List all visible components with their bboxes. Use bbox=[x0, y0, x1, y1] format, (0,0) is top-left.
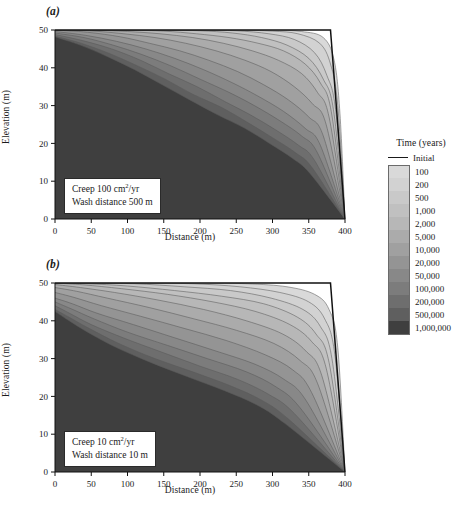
panel-b-annotation: Creep 10 cm2/yr Wash distance 10 m bbox=[64, 431, 156, 467]
svg-text:20: 20 bbox=[39, 392, 49, 402]
legend-entry-label: 1,000,000 bbox=[415, 323, 451, 333]
svg-text:40: 40 bbox=[39, 316, 49, 326]
svg-text:0: 0 bbox=[44, 467, 49, 477]
legend-color-swatch bbox=[388, 204, 410, 217]
legend-entry-label: 200,000 bbox=[415, 297, 444, 307]
legend-entry-label: 20,000 bbox=[415, 258, 440, 268]
legend-color-swatch bbox=[388, 308, 410, 321]
legend-color-swatch bbox=[388, 217, 410, 230]
svg-text:10: 10 bbox=[39, 429, 49, 439]
svg-text:30: 30 bbox=[39, 101, 49, 111]
legend-entry-label: 500,000 bbox=[415, 310, 444, 320]
legend-entry: 50,000 bbox=[388, 269, 469, 282]
panel-a-x-axis-title: Distance (m) bbox=[0, 232, 380, 242]
legend-entry-initial: Initial bbox=[382, 152, 469, 163]
legend-entry: 10,000 bbox=[388, 243, 469, 256]
legend-entry-label: 100,000 bbox=[415, 284, 444, 294]
legend-entry-label: 1,000 bbox=[415, 206, 435, 216]
legend-color-swatch bbox=[388, 256, 410, 269]
legend-color-swatch bbox=[388, 230, 410, 243]
panel-b-annotation-line2: Wash distance 10 m bbox=[72, 449, 148, 462]
figure-container: (a) 05010015020025030035040001020304050 … bbox=[0, 0, 469, 506]
legend-color-swatch bbox=[388, 165, 410, 179]
legend-entry-label: 10,000 bbox=[415, 245, 440, 255]
svg-text:20: 20 bbox=[39, 139, 49, 149]
svg-text:50: 50 bbox=[39, 25, 49, 35]
svg-text:30: 30 bbox=[39, 354, 49, 364]
legend-entry: 5,000 bbox=[388, 230, 469, 243]
legend-color-swatch bbox=[388, 178, 410, 191]
legend-title: Time (years) bbox=[382, 138, 460, 148]
legend-initial-line-swatch bbox=[388, 157, 408, 158]
legend-color-swatch bbox=[388, 295, 410, 308]
legend-entry: 2,000 bbox=[388, 217, 469, 230]
panel-a-plot: 05010015020025030035040001020304050 bbox=[0, 0, 380, 253]
legend-entry-label: 5,000 bbox=[415, 232, 435, 242]
legend-entry-label: 200 bbox=[415, 180, 429, 190]
legend-entry: 500,000 bbox=[388, 308, 469, 321]
legend-entry-label: 2,000 bbox=[415, 219, 435, 229]
legend-initial-label: Initial bbox=[413, 153, 435, 163]
legend-color-swatch bbox=[388, 282, 410, 295]
panel-a-annotation-line1: Creep 100 cm2/yr bbox=[72, 182, 153, 196]
svg-text:50: 50 bbox=[39, 278, 49, 288]
panel-b-annotation-line1: Creep 10 cm2/yr bbox=[72, 435, 148, 449]
legend-color-swatch bbox=[388, 243, 410, 256]
panel-a: (a) 05010015020025030035040001020304050 … bbox=[0, 0, 380, 253]
legend-entry: 20,000 bbox=[388, 256, 469, 269]
legend-color-swatch bbox=[388, 191, 410, 204]
svg-text:10: 10 bbox=[39, 176, 49, 186]
legend-entries: 1002005001,0002,0005,00010,00020,00050,0… bbox=[388, 165, 469, 334]
legend-entry-label: 50,000 bbox=[415, 271, 440, 281]
legend: Time (years) Initial 1002005001,0002,000… bbox=[382, 138, 469, 334]
legend-entry: 500 bbox=[388, 191, 469, 204]
panel-a-y-axis-title: Elevation (m) bbox=[1, 67, 11, 167]
legend-entry: 1,000 bbox=[388, 204, 469, 217]
svg-text:40: 40 bbox=[39, 63, 49, 73]
legend-entry: 200 bbox=[388, 178, 469, 191]
legend-entry: 100,000 bbox=[388, 282, 469, 295]
panel-a-annotation-line2: Wash distance 500 m bbox=[72, 196, 153, 209]
legend-entry-label: 500 bbox=[415, 193, 429, 203]
legend-entry: 200,000 bbox=[388, 295, 469, 308]
panel-b: (b) 05010015020025030035040001020304050 … bbox=[0, 253, 380, 506]
panel-b-x-axis-title: Distance (m) bbox=[0, 485, 380, 495]
legend-color-swatch bbox=[388, 269, 410, 282]
legend-entry: 100 bbox=[388, 165, 469, 178]
svg-text:0: 0 bbox=[44, 214, 49, 224]
legend-entry: 1,000,000 bbox=[388, 321, 469, 334]
panel-b-y-axis-title: Elevation (m) bbox=[1, 320, 11, 420]
panel-a-annotation: Creep 100 cm2/yr Wash distance 500 m bbox=[64, 178, 161, 214]
panel-b-plot: 05010015020025030035040001020304050 bbox=[0, 253, 380, 506]
legend-color-swatch bbox=[388, 321, 410, 335]
legend-entry-label: 100 bbox=[415, 167, 429, 177]
